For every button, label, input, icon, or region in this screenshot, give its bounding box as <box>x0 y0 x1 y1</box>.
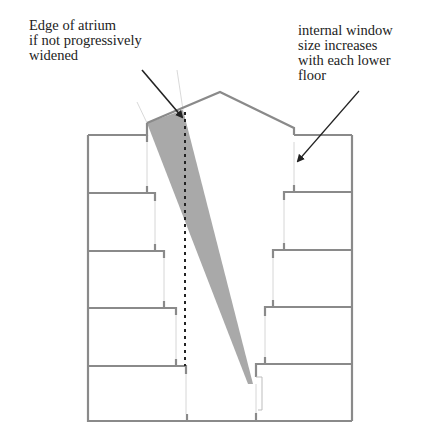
right-floor-2 <box>284 192 352 200</box>
left-floor-5 <box>88 366 186 374</box>
right-floor-5 <box>256 364 352 377</box>
atrium-light-wedge <box>147 110 253 384</box>
arrow-atrium-edge <box>142 70 182 117</box>
right-floor-3 <box>273 250 352 258</box>
arrow-window-size <box>298 91 359 161</box>
left-floor-1 <box>88 123 147 135</box>
left-floor-4 <box>88 308 176 315</box>
right-floor-4 <box>265 307 352 316</box>
left-floor-3 <box>88 251 164 258</box>
left-floor-2 <box>88 193 155 201</box>
building-section-diagram <box>0 0 448 448</box>
ground-panel <box>256 377 262 410</box>
